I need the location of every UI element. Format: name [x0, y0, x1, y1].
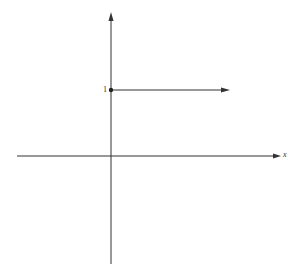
filled-dot-icon	[109, 88, 113, 92]
x-axis-arrowhead-icon	[273, 154, 281, 159]
x-axis-label: x	[283, 151, 287, 159]
x-axis	[17, 154, 281, 159]
y-axis	[109, 12, 114, 264]
segment-arrowhead-icon	[221, 88, 230, 93]
function-segment	[109, 88, 230, 93]
y-tick-label-1: 1	[103, 86, 107, 94]
y-axis-arrowhead-icon	[109, 12, 114, 21]
graph-canvas	[0, 0, 298, 279]
